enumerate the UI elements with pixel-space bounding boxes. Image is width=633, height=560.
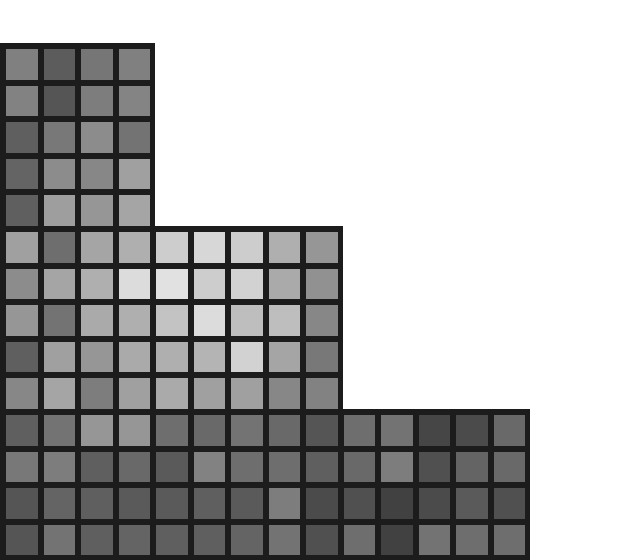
gray-square xyxy=(419,452,451,483)
gray-square xyxy=(306,488,338,519)
gray-square xyxy=(231,378,263,409)
gray-square xyxy=(44,122,76,153)
gray-square xyxy=(231,269,263,300)
gray-square xyxy=(156,525,188,556)
gray-square xyxy=(81,415,113,446)
gray-square xyxy=(494,488,526,519)
gray-square xyxy=(381,525,413,556)
gray-square xyxy=(494,415,526,446)
gray-square xyxy=(119,488,151,519)
middle-block xyxy=(0,226,343,414)
gray-square xyxy=(44,488,76,519)
gray-square xyxy=(6,415,38,446)
top-block xyxy=(0,43,155,231)
gray-square xyxy=(81,122,113,153)
gray-square xyxy=(156,452,188,483)
gray-square xyxy=(81,488,113,519)
gray-square xyxy=(269,488,301,519)
gray-square xyxy=(156,415,188,446)
gray-square xyxy=(269,232,301,263)
gray-square xyxy=(6,122,38,153)
gray-square xyxy=(306,305,338,336)
gray-square xyxy=(456,525,488,556)
gray-square xyxy=(81,86,113,117)
gray-square xyxy=(81,159,113,190)
gray-square xyxy=(156,232,188,263)
gray-square xyxy=(231,415,263,446)
gray-square xyxy=(81,525,113,556)
gray-square xyxy=(306,269,338,300)
gray-square xyxy=(306,342,338,373)
gray-square xyxy=(119,122,151,153)
gray-square xyxy=(306,452,338,483)
gray-square xyxy=(419,415,451,446)
gray-square xyxy=(194,269,226,300)
gray-square xyxy=(269,305,301,336)
gray-square xyxy=(194,525,226,556)
gray-square xyxy=(269,269,301,300)
gray-square xyxy=(6,452,38,483)
gray-square xyxy=(456,488,488,519)
gray-square xyxy=(231,488,263,519)
gray-square xyxy=(81,232,113,263)
gray-square xyxy=(156,305,188,336)
gray-square xyxy=(269,378,301,409)
gray-square xyxy=(344,452,376,483)
gray-square xyxy=(81,49,113,80)
gray-square xyxy=(269,525,301,556)
gray-square xyxy=(6,305,38,336)
gray-square xyxy=(119,232,151,263)
gray-square xyxy=(231,305,263,336)
gray-square xyxy=(44,525,76,556)
gray-square xyxy=(6,378,38,409)
gray-square xyxy=(231,232,263,263)
gray-square xyxy=(194,415,226,446)
gray-square xyxy=(44,415,76,446)
gray-square xyxy=(156,488,188,519)
gray-square xyxy=(306,415,338,446)
gray-square xyxy=(44,269,76,300)
gray-square xyxy=(119,159,151,190)
gray-square xyxy=(119,269,151,300)
gray-square xyxy=(306,378,338,409)
gray-square xyxy=(494,452,526,483)
gray-square xyxy=(156,269,188,300)
gray-square xyxy=(494,525,526,556)
gray-square xyxy=(44,342,76,373)
gray-square xyxy=(6,342,38,373)
gray-square xyxy=(456,415,488,446)
gray-square xyxy=(119,415,151,446)
gray-square xyxy=(231,525,263,556)
gray-square xyxy=(344,525,376,556)
gray-square xyxy=(306,525,338,556)
gray-square xyxy=(194,305,226,336)
gray-square xyxy=(156,378,188,409)
gray-square xyxy=(344,415,376,446)
gray-square xyxy=(381,415,413,446)
gray-square xyxy=(44,452,76,483)
gray-square xyxy=(44,378,76,409)
gray-square xyxy=(6,232,38,263)
gray-square xyxy=(6,269,38,300)
gray-square xyxy=(119,525,151,556)
gray-square xyxy=(44,195,76,226)
gray-square xyxy=(6,525,38,556)
gray-square xyxy=(269,415,301,446)
gray-square xyxy=(44,159,76,190)
gray-square xyxy=(194,488,226,519)
gray-square xyxy=(119,452,151,483)
gray-square xyxy=(81,269,113,300)
gray-square xyxy=(6,49,38,80)
bottom-block xyxy=(0,409,530,560)
gray-square xyxy=(344,488,376,519)
gray-square xyxy=(456,452,488,483)
gray-square xyxy=(119,378,151,409)
gray-square xyxy=(81,378,113,409)
gray-square xyxy=(119,195,151,226)
gray-square xyxy=(381,488,413,519)
gray-square xyxy=(44,305,76,336)
gray-square xyxy=(194,232,226,263)
gray-square xyxy=(231,342,263,373)
gray-square xyxy=(269,342,301,373)
gray-square xyxy=(6,159,38,190)
